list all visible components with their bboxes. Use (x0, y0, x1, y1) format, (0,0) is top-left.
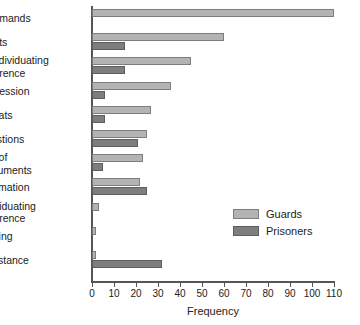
legend-swatch-guards (233, 209, 259, 219)
x-axis-tick (224, 282, 225, 287)
category-label: Use of Instruments (0, 151, 87, 176)
x-axis-tick (114, 282, 115, 287)
x-axis-tick-label: 20 (130, 288, 141, 299)
x-axis-tick (290, 282, 291, 287)
x-axis-tick (312, 282, 313, 287)
x-axis-tick-label: 0 (89, 288, 95, 299)
category-label: Individuating Reference (0, 200, 87, 225)
x-axis-tick-label: 60 (218, 288, 229, 299)
x-axis-tick (334, 282, 335, 287)
x-axis-tick-label: 80 (262, 288, 273, 299)
x-axis-title: Frequency (92, 305, 334, 317)
category-label: Insults (0, 36, 87, 49)
bar-guards (92, 178, 140, 186)
x-axis-tick-label: 100 (304, 288, 321, 299)
x-axis-tick (92, 282, 93, 287)
x-axis-tick-label: 50 (196, 288, 207, 299)
x-axis-tick-label: 110 (326, 288, 342, 299)
bar-prisoners (92, 260, 162, 268)
x-axis-tick (136, 282, 137, 287)
bar-prisoners (92, 139, 138, 147)
bar-guards (92, 203, 99, 211)
bar-guards (92, 154, 143, 162)
bar-guards (92, 106, 151, 114)
bar-guards (92, 130, 147, 138)
x-axis-line (91, 281, 335, 283)
x-axis-tick-label: 30 (152, 288, 163, 299)
bar-prisoners (92, 91, 105, 99)
bar-prisoners (92, 42, 125, 50)
x-axis-tick (202, 282, 203, 287)
category-label: Commands (0, 12, 87, 25)
category-label: Threats (0, 109, 87, 122)
bar-guards (92, 227, 96, 235)
x-axis-tick (158, 282, 159, 287)
legend-label-guards: Guards (266, 208, 302, 220)
bar-prisoners (92, 163, 103, 171)
category-label: Deindividuating Reference (0, 54, 87, 79)
category-label: Helping (0, 230, 87, 243)
x-axis-tick (268, 282, 269, 287)
x-axis-tick-label: 40 (174, 288, 185, 299)
bar-guards (92, 82, 171, 90)
category-label: Resistance (0, 254, 87, 267)
bar-guards (92, 57, 191, 65)
x-axis-tick-label: 70 (240, 288, 251, 299)
bar-prisoners (92, 115, 105, 123)
x-axis-tick (246, 282, 247, 287)
x-axis-tick (180, 282, 181, 287)
bar-guards (92, 251, 96, 259)
chart-legend: Guards Prisoners (233, 208, 312, 242)
legend-item-prisoners: Prisoners (233, 225, 312, 237)
legend-swatch-prisoners (233, 226, 259, 236)
bar-chart-figure: CommandsInsultsDeindividuating Reference… (0, 0, 360, 325)
category-label: Questions (0, 133, 87, 146)
x-axis-tick-label: 90 (284, 288, 295, 299)
bar-guards (92, 9, 334, 17)
x-axis-tick-label: 10 (108, 288, 119, 299)
category-label: Information (0, 181, 87, 194)
legend-label-prisoners: Prisoners (266, 225, 312, 237)
category-label: Aggression (0, 85, 87, 98)
bar-prisoners (92, 66, 125, 74)
bar-guards (92, 33, 224, 41)
legend-item-guards: Guards (233, 208, 312, 220)
bar-prisoners (92, 187, 147, 195)
